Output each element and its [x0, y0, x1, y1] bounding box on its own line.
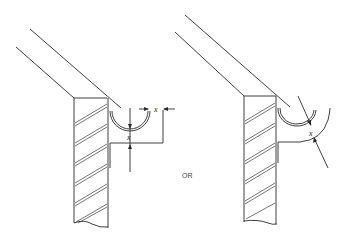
wall-hatching — [75, 104, 107, 223]
left-figure: x x — [16, 29, 175, 228]
dimension-label-x-horizontal: x — [153, 105, 158, 114]
gutter-diagram: x x OR — [0, 0, 350, 244]
dimension-label-x: x — [308, 129, 313, 138]
or-label: OR — [182, 172, 193, 179]
dimension-label-x-vertical: x — [126, 133, 131, 142]
wall-hatching — [245, 103, 275, 219]
right-figure: x — [175, 15, 330, 224]
